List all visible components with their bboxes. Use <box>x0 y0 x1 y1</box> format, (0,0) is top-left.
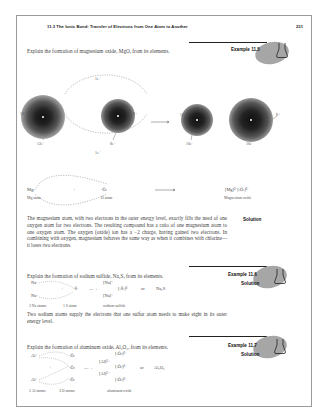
al2o3-formula: Al₂O₃ <box>154 365 165 370</box>
o-atom-3: ·Ö: <box>69 377 75 382</box>
o-atom-2: ·Ö: <box>69 365 75 370</box>
textbook-page: 11.3 The Ionic Bond: Transfer of Electro… <box>16 15 312 407</box>
al-atoms-label: 2 Al atoms <box>29 389 45 393</box>
aluminum-transfer-arcs <box>17 16 311 416</box>
al-atom-1: Al· <box>31 353 37 358</box>
plus-sign: + <box>49 365 51 370</box>
al-ion-2: [Al]³⁺ <box>99 371 110 376</box>
reaction-arrow: —→ <box>84 365 93 370</box>
or-text: or <box>140 365 144 370</box>
o-ion-3: [:Ö:]²⁻ <box>115 377 127 382</box>
o-ion-2: [:Ö:]²⁻ <box>115 364 127 369</box>
o-ion-1: [:Ö:]²⁻ <box>115 351 127 356</box>
al-ion-1: [Al]³⁺ <box>99 359 110 364</box>
o-atoms-label: 3 O atoms <box>59 389 75 393</box>
aluminum-oxide-label: aluminum oxide <box>107 389 132 393</box>
al-atom-2: Al· <box>31 377 37 382</box>
o-atom-1: ·Ö: <box>69 353 75 358</box>
